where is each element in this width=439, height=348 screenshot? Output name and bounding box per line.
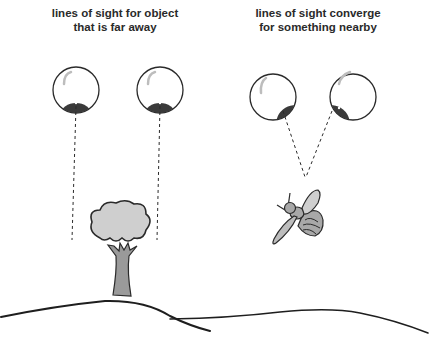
converging-lines-of-sight: [283, 111, 332, 177]
eye-left-far-2: [137, 67, 183, 125]
tree-icon: [91, 201, 150, 296]
eye-right-near-2: [317, 72, 376, 136]
vision-diagram: [0, 0, 439, 348]
ground-hills: [1, 301, 428, 333]
eye-left-far-1: [53, 67, 99, 125]
eye-right-near-1: [250, 74, 309, 136]
bee-icon: [273, 190, 323, 244]
